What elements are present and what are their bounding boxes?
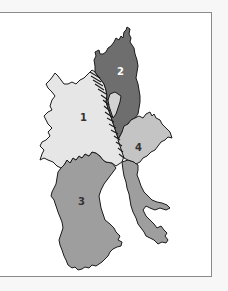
region-label-2: 2	[117, 66, 124, 77]
region-3-east-arm[interactable]	[122, 160, 170, 244]
region-label-4: 4	[135, 142, 142, 153]
region-3[interactable]	[51, 152, 122, 270]
region-label-3: 3	[78, 196, 85, 207]
region-map: 2 1 4 3	[0, 0, 228, 291]
region-label-1: 1	[80, 112, 87, 123]
map-figure: 2 1 4 3	[0, 0, 228, 291]
